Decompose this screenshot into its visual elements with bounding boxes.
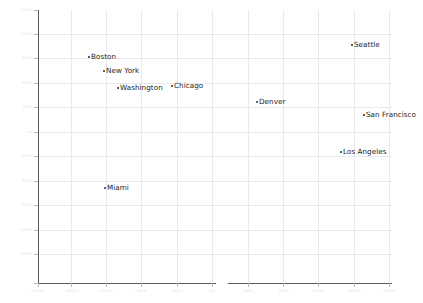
data-point-marker[interactable] <box>363 114 365 116</box>
gridline-vertical-6 <box>283 10 284 283</box>
x-axis-spine-segment-1 <box>228 283 392 284</box>
data-point-marker[interactable] <box>104 187 106 189</box>
data-point-label: Chicago <box>174 82 203 90</box>
data-point-label: Seattle <box>354 41 380 49</box>
y-tick-6 <box>34 156 38 157</box>
scatter-plot-figure: BostonNew YorkWashingtonChicagoDenverSea… <box>0 0 423 303</box>
gridline-vertical-7 <box>318 10 319 283</box>
y-tick-4 <box>34 107 38 108</box>
gridline-vertical-3 <box>177 10 178 283</box>
x-tick-0 <box>38 283 39 287</box>
data-point-marker[interactable] <box>340 151 342 153</box>
data-point-label: Denver <box>259 98 285 106</box>
y-tick-10 <box>34 254 38 255</box>
gridline-vertical-9 <box>389 10 390 283</box>
x-tick-5 <box>212 283 213 287</box>
x-tick-4 <box>177 283 178 287</box>
x-tick-7 <box>283 283 284 287</box>
y-axis-spine <box>38 10 39 283</box>
y-tick-label-10: -1500.0 <box>0 252 32 256</box>
gridline-horizontal-5 <box>38 156 392 157</box>
gridline-horizontal-3 <box>38 107 392 108</box>
y-tick-label-8: -900.0 <box>0 203 32 207</box>
x-tick-label-9: 1600.0 <box>334 289 374 293</box>
gridline-vertical-5 <box>248 10 249 283</box>
x-tick-8 <box>318 283 319 287</box>
x-tick-label-4: -400.0 <box>157 289 197 293</box>
data-point-marker[interactable] <box>117 87 119 89</box>
y-tick-label-7: -600.0 <box>0 179 32 183</box>
y-tick-label-5: 0.0 <box>0 130 32 134</box>
x-tick-10 <box>389 283 390 287</box>
y-tick-label-2: 900.0 <box>0 56 32 60</box>
y-tick-label-9: -1200.0 <box>0 228 32 232</box>
y-tick-1 <box>34 34 38 35</box>
y-tick-label-3: 600.0 <box>0 81 32 85</box>
data-point-label: Boston <box>91 53 116 61</box>
x-tick-label-5: 0.0 <box>192 289 232 293</box>
gridline-horizontal-7 <box>38 205 392 206</box>
x-tick-label-1: -1600.0 <box>51 289 91 293</box>
x-tick-6 <box>248 283 249 287</box>
gridline-horizontal-4 <box>38 132 392 133</box>
gridline-horizontal-8 <box>38 230 392 231</box>
gridline-vertical-4 <box>212 10 213 283</box>
x-tick-label-7: 800.0 <box>263 289 303 293</box>
x-tick-label-3: -800.0 <box>121 289 161 293</box>
data-point-marker[interactable] <box>88 56 90 58</box>
data-point-label: Washington <box>120 84 163 92</box>
data-point-marker[interactable] <box>103 70 105 72</box>
gridline-vertical-2 <box>141 10 142 283</box>
x-axis-spine-segment-0 <box>38 283 216 284</box>
x-tick-3 <box>141 283 142 287</box>
data-point-label: New York <box>106 67 139 75</box>
y-tick-label-6: -300.0 <box>0 154 32 158</box>
x-tick-label-10: 2000.0 <box>369 289 409 293</box>
x-tick-label-2: -1200.0 <box>86 289 126 293</box>
gridline-vertical-0 <box>71 10 72 283</box>
data-point-label: Los Angeles <box>343 148 386 156</box>
y-tick-label-4: 300.0 <box>0 105 32 109</box>
y-tick-8 <box>34 205 38 206</box>
data-point-marker[interactable] <box>256 101 258 103</box>
gridline-horizontal-2 <box>38 83 392 84</box>
y-tick-2 <box>34 58 38 59</box>
data-point-marker[interactable] <box>171 85 173 87</box>
x-tick-2 <box>106 283 107 287</box>
x-tick-label-8: 1200.0 <box>298 289 338 293</box>
y-tick-5 <box>34 132 38 133</box>
gridline-vertical-1 <box>106 10 107 283</box>
x-tick-1 <box>71 283 72 287</box>
x-tick-label-6: 400.0 <box>228 289 268 293</box>
gridline-horizontal-9 <box>38 254 392 255</box>
data-point-label: San Francisco <box>366 111 416 119</box>
y-tick-7 <box>34 181 38 182</box>
y-tick-3 <box>34 83 38 84</box>
y-tick-label-1: 1200.0 <box>0 32 32 36</box>
plot-area: BostonNew YorkWashingtonChicagoDenverSea… <box>38 10 392 283</box>
data-point-label: Miami <box>107 184 129 192</box>
data-point-marker[interactable] <box>351 44 353 46</box>
gridline-horizontal-6 <box>38 181 392 182</box>
x-tick-9 <box>354 283 355 287</box>
gridline-horizontal-0 <box>38 34 392 35</box>
y-tick-9 <box>34 230 38 231</box>
y-tick-label-0: 1500.0 <box>0 8 32 12</box>
y-tick-0 <box>34 10 38 11</box>
